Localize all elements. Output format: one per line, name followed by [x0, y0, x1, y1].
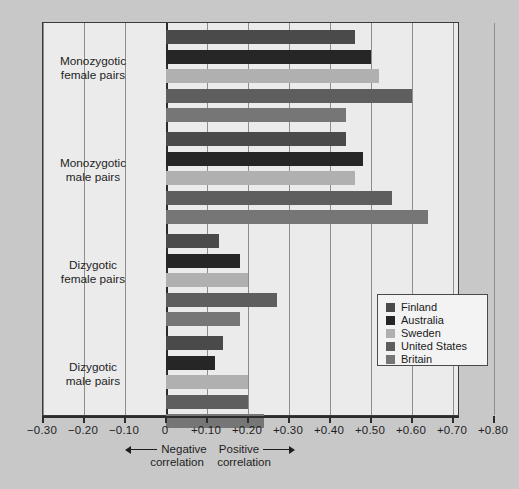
bar	[166, 356, 215, 370]
legend-label: Australia	[401, 314, 444, 326]
legend-item: United States	[386, 340, 487, 353]
bar	[166, 191, 392, 205]
arrow-right-icon	[289, 446, 295, 454]
bar	[166, 30, 355, 44]
arrow-line	[263, 449, 289, 450]
x-tick	[288, 416, 290, 423]
category-label: Dizygoticfemale pairs	[28, 258, 158, 286]
bar	[166, 234, 219, 248]
legend-item: Australia	[386, 314, 487, 327]
category-label: Dizygoticmale pairs	[28, 360, 158, 388]
x-tick	[329, 416, 331, 423]
category-label-line2: female pairs	[28, 68, 158, 82]
x-tick	[124, 416, 126, 423]
bar	[166, 273, 248, 287]
bar	[166, 152, 363, 166]
bar	[166, 312, 240, 326]
legend-label: Britain	[401, 353, 432, 365]
category-label-line1: Monozygotic	[28, 156, 158, 170]
bar	[166, 395, 248, 409]
category-label-line1: Dizygotic	[28, 360, 158, 374]
category-label-line2: female pairs	[28, 272, 158, 286]
x-tick	[42, 416, 44, 423]
bar	[166, 293, 277, 307]
legend-swatch-icon	[386, 342, 395, 351]
x-tick	[493, 416, 495, 423]
page-background: FinlandAustraliaSwedenUnited StatesBrita…	[0, 0, 519, 489]
positive-correlation-annotation: Positive correlation	[190, 443, 320, 470]
arrow-line	[131, 449, 157, 450]
bar	[166, 375, 248, 389]
legend-label: Sweden	[401, 327, 441, 339]
legend-swatch-icon	[386, 329, 395, 338]
legend-swatch-icon	[386, 355, 395, 364]
legend-label: Finland	[401, 301, 437, 313]
x-tick	[370, 416, 372, 423]
positive-arrow-row: Positive	[190, 443, 320, 456]
legend-item: Britain	[386, 353, 487, 366]
legend-item: Sweden	[386, 327, 487, 340]
bar	[166, 89, 412, 103]
chart-legend: FinlandAustraliaSwedenUnited StatesBrita…	[377, 294, 488, 366]
legend-swatch-icon	[386, 316, 395, 325]
legend-swatch-icon	[386, 303, 395, 312]
x-tick	[452, 416, 454, 423]
bar	[166, 171, 355, 185]
x-tick-label: +0.80	[463, 424, 519, 436]
category-label-line2: male pairs	[28, 374, 158, 388]
bar	[166, 336, 223, 350]
bar	[166, 210, 428, 224]
x-tick	[206, 416, 208, 423]
positive-label-line2: correlation	[190, 456, 320, 470]
x-axis-line	[42, 416, 459, 418]
category-label-line1: Dizygotic	[28, 258, 158, 272]
bar	[166, 108, 346, 122]
legend-item: Finland	[386, 301, 487, 314]
x-tick	[247, 416, 249, 423]
bar	[166, 132, 346, 146]
legend-label: United States	[401, 340, 467, 352]
bar	[166, 254, 240, 268]
category-label-line1: Monozygotic	[28, 54, 158, 68]
x-tick	[165, 416, 167, 423]
category-label: Monozygoticfemale pairs	[28, 54, 158, 82]
x-tick	[83, 416, 85, 423]
category-label-line2: male pairs	[28, 170, 158, 184]
positive-label: Positive	[215, 443, 263, 457]
category-label: Monozygoticmale pairs	[28, 156, 158, 184]
bar	[166, 69, 379, 83]
x-tick	[411, 416, 413, 423]
gridline	[494, 23, 495, 415]
bar	[166, 50, 371, 64]
